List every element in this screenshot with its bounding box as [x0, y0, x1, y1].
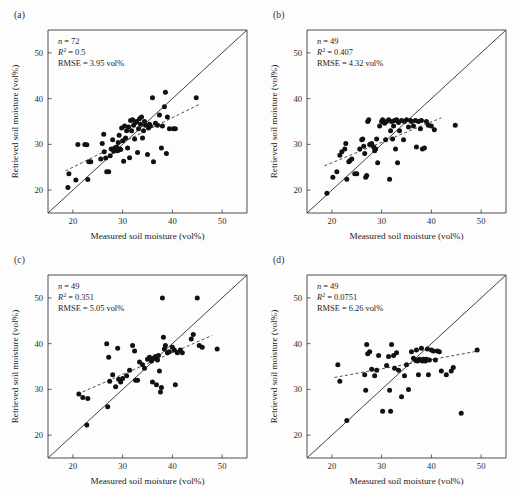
svg-text:20: 20 [293, 185, 302, 195]
svg-text:20: 20 [34, 185, 43, 195]
panel-c: (c) 2030405020304050Measured soil moistu… [0, 245, 259, 490]
panel-a: (a) 2030405020304050Measured soil moistu… [0, 0, 259, 245]
svg-text:50: 50 [218, 461, 227, 471]
svg-text:40: 40 [34, 94, 43, 104]
svg-text:50: 50 [218, 216, 227, 226]
svg-text:R2 = 0.407: R2 = 0.407 [316, 47, 353, 57]
svg-text:30: 30 [118, 461, 127, 471]
svg-text:20: 20 [69, 216, 78, 226]
svg-text:RMSE = 3.95 vol%: RMSE = 3.95 vol% [58, 59, 124, 68]
svg-text:50: 50 [34, 48, 43, 58]
svg-text:50: 50 [293, 293, 302, 303]
panel-b-plot: 2030405020304050Measured soil moisture (… [259, 0, 518, 245]
panel-d-plot: 2030405020304050Measured soil moisture (… [259, 245, 518, 490]
svg-text:40: 40 [427, 461, 436, 471]
svg-text:50: 50 [477, 216, 486, 226]
svg-text:50: 50 [293, 48, 302, 58]
svg-text:20: 20 [34, 430, 43, 440]
svg-text:n = 49: n = 49 [58, 282, 79, 291]
svg-text:Retrieved soil moisture (vol%): Retrieved soil moisture (vol%) [10, 310, 20, 424]
svg-text:40: 40 [168, 461, 177, 471]
svg-text:Retrieved soil moisture (vol%): Retrieved soil moisture (vol%) [269, 310, 279, 424]
svg-text:20: 20 [328, 216, 337, 226]
panel-c-plot: 2030405020304050Measured soil moisture (… [0, 245, 259, 490]
svg-text:Measured soil moisture (vol%): Measured soil moisture (vol%) [349, 476, 463, 486]
svg-text:RMSE = 5.05 vol%: RMSE = 5.05 vol% [58, 304, 124, 313]
svg-text:40: 40 [168, 216, 177, 226]
svg-text:30: 30 [293, 384, 302, 394]
svg-text:Retrieved soil moisture (vol%): Retrieved soil moisture (vol%) [269, 65, 279, 179]
svg-text:30: 30 [118, 216, 127, 226]
svg-text:n = 49: n = 49 [317, 282, 338, 291]
panel-a-plot: 2030405020304050Measured soil moisture (… [0, 0, 259, 245]
svg-text:Measured soil moisture (vol%): Measured soil moisture (vol%) [90, 231, 204, 241]
svg-text:Retrieved soil moisture (vol%): Retrieved soil moisture (vol%) [10, 65, 20, 179]
svg-text:n = 49: n = 49 [317, 37, 338, 46]
svg-text:R2 = 0.351: R2 = 0.351 [57, 292, 94, 302]
svg-text:40: 40 [293, 94, 302, 104]
svg-text:RMSE = 4.32 vol%: RMSE = 4.32 vol% [317, 59, 383, 68]
panel-b: (b) 2030405020304050Measured soil moistu… [259, 0, 518, 245]
svg-text:R2 = 0.5: R2 = 0.5 [57, 47, 86, 57]
svg-text:20: 20 [328, 461, 337, 471]
svg-text:RMSE = 6.26 vol%: RMSE = 6.26 vol% [317, 304, 383, 313]
svg-text:20: 20 [69, 461, 78, 471]
svg-text:30: 30 [293, 139, 302, 149]
figure-root: (a) 2030405020304050Measured soil moistu… [0, 0, 518, 490]
svg-text:40: 40 [427, 216, 436, 226]
svg-text:50: 50 [34, 293, 43, 303]
svg-text:30: 30 [34, 384, 43, 394]
svg-text:30: 30 [377, 461, 386, 471]
svg-text:Measured soil moisture (vol%): Measured soil moisture (vol%) [349, 231, 463, 241]
svg-text:30: 30 [34, 139, 43, 149]
svg-text:40: 40 [293, 339, 302, 349]
svg-text:50: 50 [477, 461, 486, 471]
panel-d: (d) 2030405020304050Measured soil moistu… [259, 245, 518, 490]
svg-text:n = 72: n = 72 [58, 37, 79, 46]
svg-text:Measured soil moisture (vol%): Measured soil moisture (vol%) [90, 476, 204, 486]
svg-text:20: 20 [293, 430, 302, 440]
svg-text:R2 = 0.0751: R2 = 0.0751 [316, 292, 357, 302]
svg-text:40: 40 [34, 339, 43, 349]
svg-text:30: 30 [377, 216, 386, 226]
